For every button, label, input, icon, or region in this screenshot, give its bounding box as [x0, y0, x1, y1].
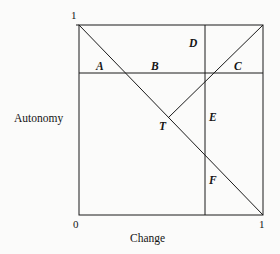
region-label-c: C	[234, 61, 242, 73]
figure-root: 1 0 1 Change Autonomy A B C D E F T	[0, 0, 280, 254]
diagram-canvas	[0, 0, 280, 254]
region-label-e: E	[209, 112, 217, 124]
region-label-a: A	[96, 61, 104, 73]
region-label-f: F	[209, 175, 217, 187]
point-label-t: T	[159, 121, 166, 133]
region-label-d: D	[189, 38, 197, 50]
descending-diagonal-line	[79, 25, 263, 215]
region-label-b: B	[151, 61, 159, 73]
ascending-segment-line	[168, 25, 263, 118]
